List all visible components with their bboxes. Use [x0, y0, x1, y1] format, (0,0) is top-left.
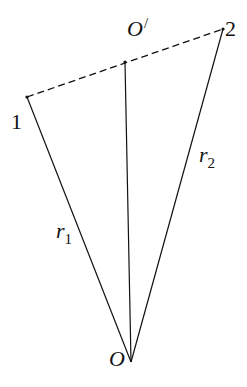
- segment-r1: [27, 97, 131, 362]
- label-point-2-text: 2: [225, 16, 236, 41]
- label-r2: r2: [199, 144, 215, 166]
- label-r1: r1: [56, 220, 72, 242]
- label-point-2: 2: [225, 18, 236, 40]
- point-o-prime-dot: [123, 60, 126, 63]
- diagram-lines: [0, 0, 247, 387]
- label-r2-subscript: 2: [208, 155, 216, 171]
- segment-r2: [131, 29, 223, 362]
- label-o-prime-letter: O: [127, 16, 143, 41]
- label-r1-letter: r: [56, 218, 65, 243]
- label-r1-subscript: 1: [65, 231, 73, 247]
- diagram-canvas: 1 2 O/ O r1 r2: [0, 0, 247, 387]
- point-1-dot: [25, 95, 28, 98]
- label-origin: O: [109, 348, 125, 370]
- label-r2-letter: r: [199, 142, 208, 167]
- label-point-1-text: 1: [11, 109, 22, 134]
- label-origin-text: O: [109, 346, 125, 371]
- label-point-1: 1: [11, 111, 22, 133]
- label-o-prime: O/: [127, 18, 148, 40]
- segment-o-o-prime: [125, 62, 131, 362]
- label-o-prime-mark: /: [144, 15, 148, 31]
